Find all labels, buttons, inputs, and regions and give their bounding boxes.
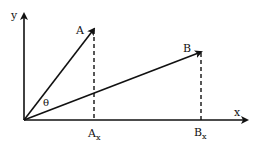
angle-theta-label: θ <box>43 97 49 108</box>
diagram-canvas: y x A B θ Ax Bx <box>0 0 258 149</box>
bx-label: Bx <box>194 126 207 141</box>
vector-b-label: B <box>183 42 191 55</box>
vector-diagram: y x A B θ Ax Bx <box>0 0 258 149</box>
ax-label: Ax <box>87 127 101 142</box>
x-axis-label: x <box>234 106 241 119</box>
vector-a-label: A <box>75 24 85 37</box>
y-axis-label: y <box>10 9 18 22</box>
